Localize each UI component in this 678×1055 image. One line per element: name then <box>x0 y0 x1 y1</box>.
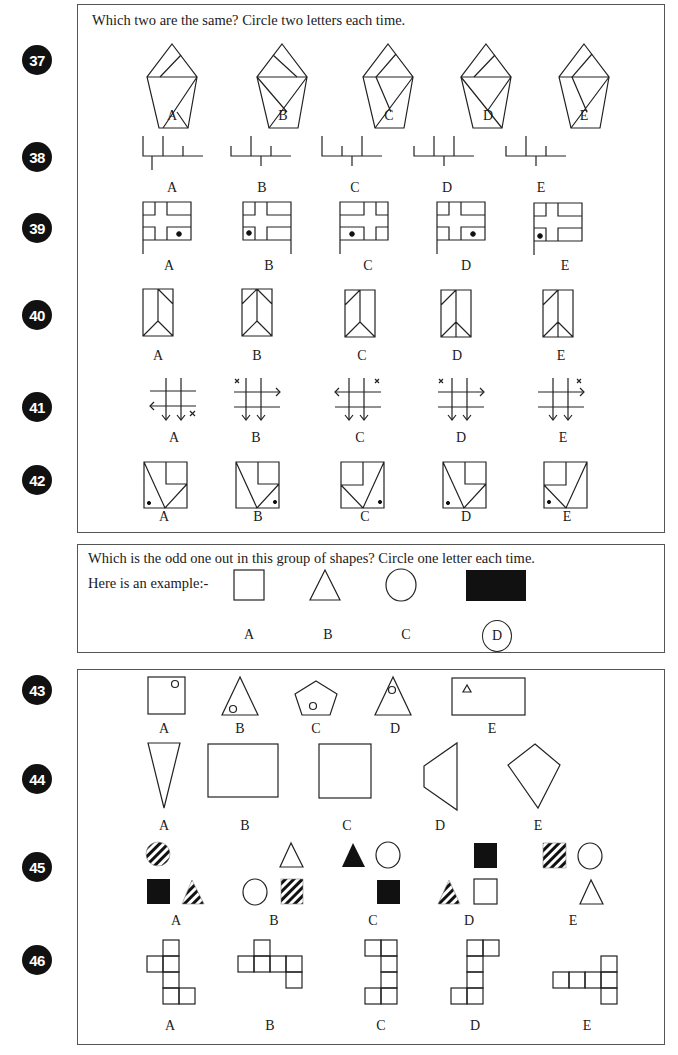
q46-figures <box>0 0 678 1040</box>
q46-option-a[interactable]: A <box>160 1018 180 1034</box>
q46-option-e[interactable]: E <box>577 1018 597 1034</box>
q46-figure-a[interactable] <box>147 940 195 1004</box>
q46-figure-e[interactable] <box>553 956 617 1004</box>
q46-figure-b[interactable] <box>238 940 302 988</box>
q46-figure-d[interactable] <box>451 940 499 1004</box>
q46-option-c[interactable]: C <box>371 1018 391 1034</box>
q46-option-b[interactable]: B <box>260 1018 280 1034</box>
q46-figure-c[interactable] <box>365 940 397 1004</box>
q46-option-d[interactable]: D <box>465 1018 485 1034</box>
